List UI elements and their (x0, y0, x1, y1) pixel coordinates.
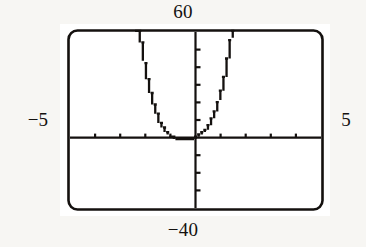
window-ymax-label: 60 (0, 2, 366, 21)
window-xmin-label: −5 (14, 110, 62, 129)
window-xmax-label: 5 (333, 110, 359, 129)
figure-stage: 60 −5 5 −40 (0, 0, 366, 247)
calculator-screen (60, 24, 330, 216)
window-ymin-label: −40 (0, 220, 366, 239)
graph-svg (60, 24, 330, 216)
